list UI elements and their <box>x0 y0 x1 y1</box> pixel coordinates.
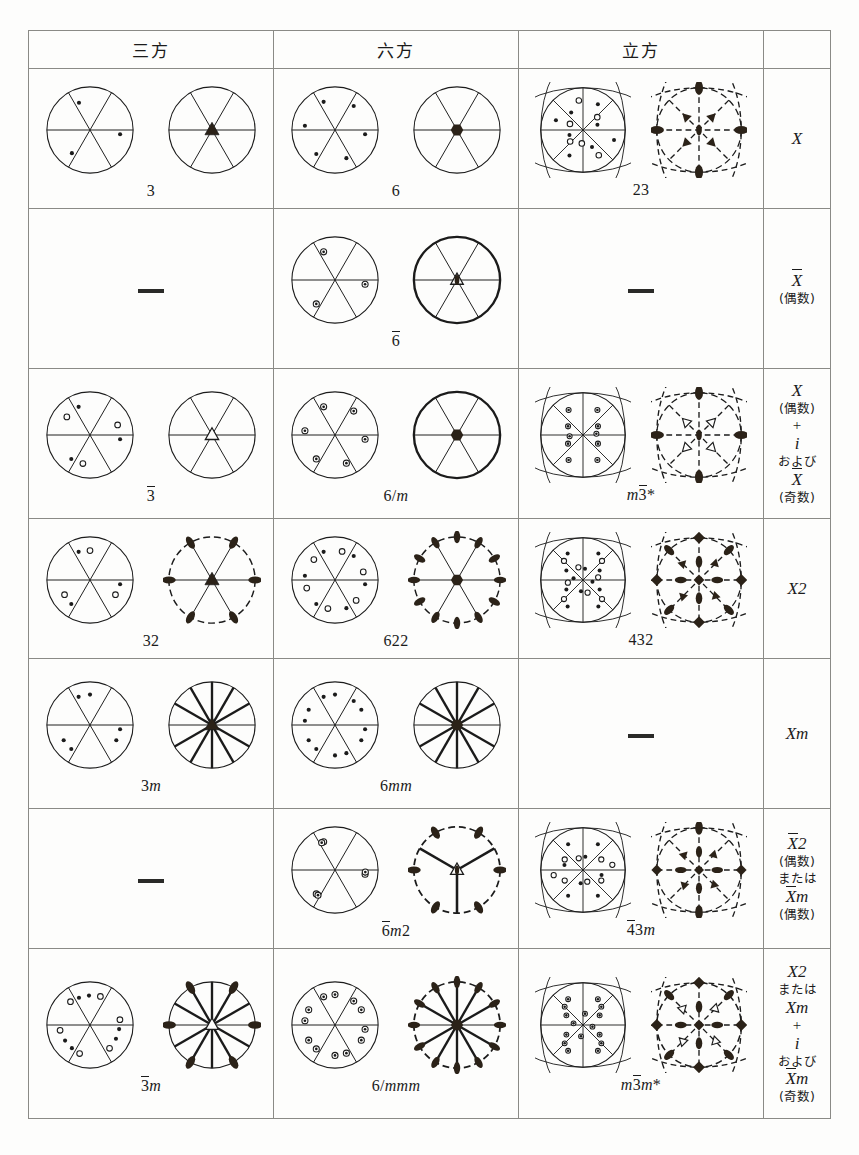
cell-row-X2-cubic: 432 <box>519 519 764 659</box>
table-row: 32622432X2 <box>29 519 831 659</box>
stereogram-pair-6 <box>286 81 506 179</box>
stereogram-pair-23 <box>535 82 747 178</box>
cell-row-X2-trigonal: 32 <box>29 519 274 659</box>
stereogram-symmetry-6 <box>408 81 506 179</box>
point-group-symbol-6: 6 <box>392 182 400 200</box>
cell-row-Xbar2-even-trigonal <box>29 809 274 949</box>
point-group-symbol-m3barm: m3m* <box>621 1076 661 1094</box>
stereogram-symmetry-3 <box>163 81 261 179</box>
general-symbol-row-X2: X2 <box>764 519 831 659</box>
general-symbol-row-X2-Xm-plus-i: X2またはXm+iおよびXm(奇数) <box>764 949 831 1119</box>
stereogram-symmetry-3m <box>163 676 261 774</box>
cell-row-X-cubic: 23 <box>519 69 764 209</box>
stereogram-pair-4bar3m <box>535 822 747 918</box>
cell-row-X-even-plus-i-trigonal: 3 <box>29 369 274 519</box>
stereogram-symmetry-32 <box>163 531 261 629</box>
stereogram-poles-6 <box>286 81 384 179</box>
stereogram-poles-6bar <box>286 231 384 329</box>
cell-row-X-even-plus-i-hexagonal: 6/m <box>274 369 519 519</box>
table-row: 3m6/mmmm3m*X2またはXm+iおよびXm(奇数) <box>29 949 831 1119</box>
cell-row-Xm-trigonal: 3m <box>29 659 274 809</box>
stereogram-symmetry-3bar <box>163 386 261 484</box>
header-cubic: 立方 <box>519 31 764 69</box>
cell-row-Xm-hexagonal: 6mm <box>274 659 519 809</box>
table-row: 3m6mmXm <box>29 659 831 809</box>
stereogram-pair-3barm <box>41 976 261 1074</box>
stereogram-symmetry-6/m <box>408 386 506 484</box>
stereogram-pair-432 <box>535 532 747 628</box>
stereogram-symmetry-m3bar <box>651 387 747 483</box>
stereogram-pair-3m <box>41 676 261 774</box>
cell-row-Xbar-even-trigonal <box>29 209 274 369</box>
cell-row-Xbar-even-hexagonal: 6 <box>274 209 519 369</box>
cell-row-X-trigonal: 3 <box>29 69 274 209</box>
stereogram-poles-432 <box>535 532 631 628</box>
page-root: 三方 六方 立方 3623X6X(偶数)36/mm3*X(偶数)+iおよびX(奇… <box>0 0 859 1155</box>
point-group-symbol-6/m: 6/m <box>384 487 409 505</box>
point-group-symbol-3barm: 3m <box>141 1077 161 1095</box>
point-group-symbol-432: 432 <box>629 631 654 649</box>
stereogram-symmetry-3barm <box>163 976 261 1074</box>
stereogram-poles-3bar <box>41 386 139 484</box>
stereogram-poles-m3barm <box>535 977 631 1073</box>
empty-dash <box>628 734 654 738</box>
cell-row-X2-hexagonal: 622 <box>274 519 519 659</box>
table-row: 6m243mX2(偶数)またはXm(偶数) <box>29 809 831 949</box>
cell-row-Xbar-even-cubic <box>519 209 764 369</box>
stereogram-pair-3bar <box>41 386 261 484</box>
stereogram-symmetry-6bar <box>408 231 506 329</box>
stereogram-pair-6mm <box>286 676 506 774</box>
point-group-symbol-3bar: 3 <box>147 487 155 505</box>
stereogram-poles-6mm <box>286 676 384 774</box>
stereogram-symmetry-6/mmm <box>408 976 506 1074</box>
stereogram-symmetry-m3barm <box>651 977 747 1073</box>
general-symbol-row-Xbar-even: X(偶数) <box>764 209 831 369</box>
cell-row-Xbar2-even-hexagonal: 6m2 <box>274 809 519 949</box>
table-header-row: 三方 六方 立方 <box>29 31 831 69</box>
point-group-symbol-32: 32 <box>143 632 160 650</box>
point-group-symbol-4bar3m: 43m <box>627 921 655 939</box>
point-group-symbol-3m: 3m <box>141 777 161 795</box>
stereogram-pair-622 <box>286 531 506 629</box>
stereogram-poles-3barm <box>41 976 139 1074</box>
stereogram-pair-m3bar <box>535 387 747 483</box>
general-symbol-row-X-even-plus-i: X(偶数)+iおよびX(奇数) <box>764 369 831 519</box>
stereogram-pair-m3barm <box>535 977 747 1073</box>
stereogram-poles-m3bar <box>535 387 631 483</box>
cell-row-X2-Xm-plus-i-cubic: m3m* <box>519 949 764 1119</box>
table-body: 3623X6X(偶数)36/mm3*X(偶数)+iおよびX(奇数)3262243… <box>29 69 831 1119</box>
point-group-symbol-622: 622 <box>384 632 409 650</box>
table-row: 36/mm3*X(偶数)+iおよびX(奇数) <box>29 369 831 519</box>
stereogram-symmetry-23 <box>651 82 747 178</box>
point-group-symbol-6barm2: 6m2 <box>382 922 410 940</box>
stereogram-symmetry-4bar3m <box>651 822 747 918</box>
stereogram-pair-6/m <box>286 386 506 484</box>
stereogram-poles-6barm2 <box>286 821 384 919</box>
point-group-symbol-6mm: 6mm <box>380 777 412 795</box>
cell-row-Xm-cubic <box>519 659 764 809</box>
cell-row-X2-Xm-plus-i-hexagonal: 6/mmm <box>274 949 519 1119</box>
stereogram-symmetry-6mm <box>408 676 506 774</box>
stereogram-poles-3m <box>41 676 139 774</box>
stereogram-pair-6/mmm <box>286 976 506 1074</box>
header-trigonal: 三方 <box>29 31 274 69</box>
table-row: 3623X <box>29 69 831 209</box>
point-group-symbol-m3bar: m3* <box>627 486 655 504</box>
cell-row-Xbar2-even-cubic: 43m <box>519 809 764 949</box>
empty-dash <box>138 879 164 883</box>
stereogram-poles-622 <box>286 531 384 629</box>
point-group-symbol-3: 3 <box>147 182 155 200</box>
empty-dash <box>138 289 164 293</box>
stereogram-pair-32 <box>41 531 261 629</box>
stereogram-pair-6barm2 <box>286 821 506 919</box>
point-group-table: 三方 六方 立方 3623X6X(偶数)36/mm3*X(偶数)+iおよびX(奇… <box>28 30 831 1119</box>
header-general-symbol <box>764 31 831 69</box>
point-group-symbol-6bar: 6 <box>392 332 400 350</box>
cell-row-X-even-plus-i-cubic: m3* <box>519 369 764 519</box>
stereogram-symmetry-432 <box>651 532 747 628</box>
stereogram-poles-23 <box>535 82 631 178</box>
stereogram-poles-3 <box>41 81 139 179</box>
cell-row-X2-Xm-plus-i-trigonal: 3m <box>29 949 274 1119</box>
stereogram-symmetry-6barm2 <box>408 821 506 919</box>
point-group-symbol-23: 23 <box>633 181 650 199</box>
